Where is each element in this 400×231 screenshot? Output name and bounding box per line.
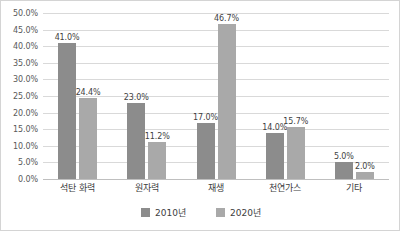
y-axis-tick-label: 45.0% <box>13 25 38 34</box>
bar-value-label: 17.0% <box>193 113 218 122</box>
bar-slot: 5.0% <box>335 13 353 179</box>
x-axis-category-labels: 석탄 화력원자력재생천연가스기타 <box>43 181 389 194</box>
y-axis-tick-label: 25.0% <box>13 92 38 101</box>
bar-group: 17.0%46.7% <box>181 13 250 179</box>
y-axis-tick-label: 50.0% <box>13 9 38 18</box>
y-axis-tick-label: 15.0% <box>13 125 38 134</box>
bar-value-label: 41.0% <box>55 33 80 42</box>
bar[interactable] <box>266 133 284 179</box>
y-axis-tick-label: 10.0% <box>13 141 38 150</box>
bar[interactable] <box>127 103 145 179</box>
y-axis-tick-label: 30.0% <box>13 75 38 84</box>
bar[interactable] <box>218 24 236 179</box>
bar-value-label: 2.0% <box>355 162 375 171</box>
bar-groups: 41.0%24.4%23.0%11.2%17.0%46.7%14.0%15.7%… <box>43 13 389 179</box>
legend-label: 2010년 <box>155 206 186 219</box>
x-axis-category-label: 천연가스 <box>251 181 320 194</box>
bar-group: 14.0%15.7% <box>251 13 320 179</box>
bar-value-label: 11.2% <box>145 132 170 141</box>
bar-group: 5.0%2.0% <box>320 13 389 179</box>
bar[interactable] <box>79 98 97 179</box>
bar-value-label: 23.0% <box>124 93 149 102</box>
bar[interactable] <box>148 142 166 179</box>
bar[interactable] <box>58 43 76 179</box>
chart-legend: 2010년2020년 <box>1 206 400 219</box>
legend-swatch-icon <box>141 208 150 217</box>
bar-slot: 15.7% <box>287 13 305 179</box>
bar[interactable] <box>197 123 215 179</box>
bar-slot: 17.0% <box>197 13 215 179</box>
bar-value-label: 24.4% <box>76 88 101 97</box>
legend-swatch-icon <box>216 208 225 217</box>
legend-item[interactable]: 2020년 <box>216 206 261 219</box>
bar-group: 41.0%24.4% <box>43 13 112 179</box>
plot-area: 0.0%5.0%10.0%15.0%20.0%25.0%30.0%35.0%40… <box>43 13 389 179</box>
bar-slot: 24.4% <box>79 13 97 179</box>
bar-group: 23.0%11.2% <box>112 13 181 179</box>
bar-slot: 41.0% <box>58 13 76 179</box>
bar-slot: 46.7% <box>218 13 236 179</box>
bar-slot: 23.0% <box>127 13 145 179</box>
bar-value-label: 46.7% <box>214 14 239 23</box>
y-axis-tick-label: 20.0% <box>13 108 38 117</box>
bar-slot: 2.0% <box>356 13 374 179</box>
gridline <box>43 179 389 180</box>
bar-slot: 14.0% <box>266 13 284 179</box>
x-axis-category-label: 기타 <box>320 181 389 194</box>
x-axis-category-label: 원자력 <box>112 181 181 194</box>
bar-value-label: 5.0% <box>334 152 354 161</box>
y-axis-tick-label: 5.0% <box>18 158 38 167</box>
chart-figure: 0.0%5.0%10.0%15.0%20.0%25.0%30.0%35.0%40… <box>0 0 400 231</box>
bar[interactable] <box>287 127 305 179</box>
y-axis-tick-label: 35.0% <box>13 58 38 67</box>
bar-slot: 11.2% <box>148 13 166 179</box>
legend-label: 2020년 <box>230 206 261 219</box>
bar[interactable] <box>335 162 353 179</box>
x-axis-category-label: 석탄 화력 <box>43 181 112 194</box>
y-axis-tick-label: 40.0% <box>13 42 38 51</box>
bar-value-label: 15.7% <box>283 117 308 126</box>
x-axis-category-label: 재생 <box>181 181 250 194</box>
bar[interactable] <box>356 172 374 179</box>
legend-item[interactable]: 2010년 <box>141 206 186 219</box>
y-axis-tick-label: 0.0% <box>18 175 38 184</box>
